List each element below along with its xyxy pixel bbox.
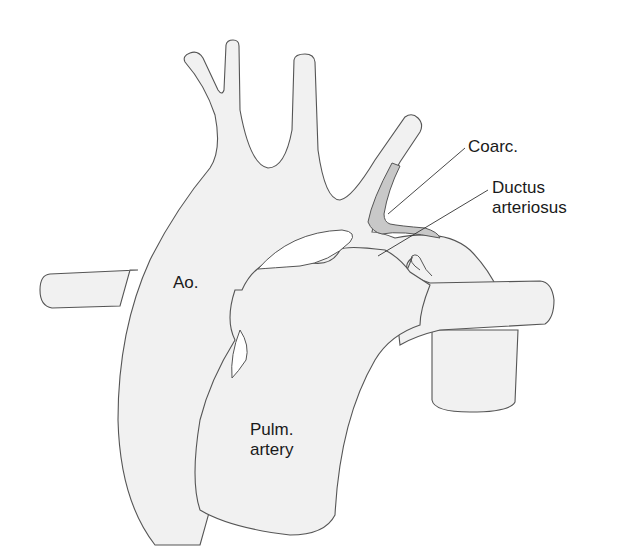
left-branch-vessel bbox=[40, 270, 138, 308]
right-lower-stub bbox=[432, 330, 518, 412]
heart-vessels-diagram bbox=[0, 0, 618, 559]
coarctation-label: Coarc. bbox=[468, 137, 518, 157]
aorta-label: Ao. bbox=[173, 273, 199, 293]
pulmonary-label-line2: artery bbox=[250, 440, 293, 460]
ductus-label-line2: arteriosus bbox=[492, 198, 567, 218]
pulmonary-label-line1: Pulm. bbox=[250, 420, 293, 440]
ductus-label-line1: Ductus bbox=[492, 178, 545, 198]
